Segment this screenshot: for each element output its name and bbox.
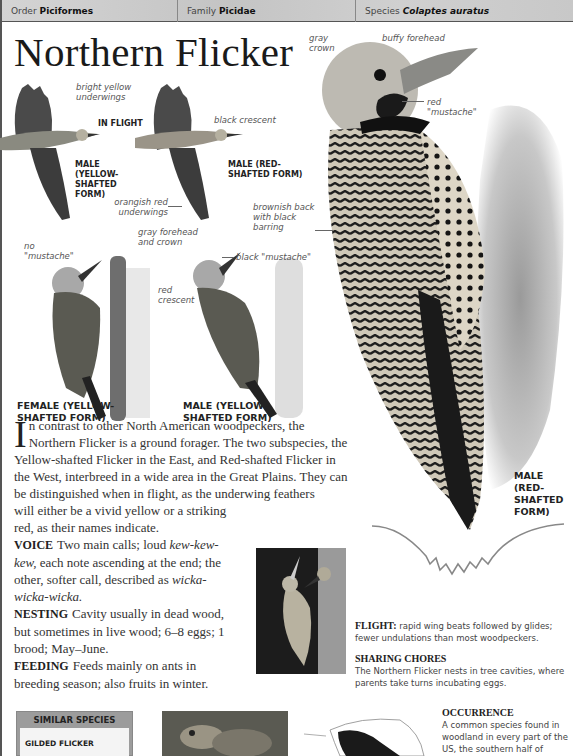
- family-label: Family: [187, 6, 216, 16]
- caption-male-red-flight: MALE (RED- SHAFTED FORM): [228, 160, 308, 180]
- label-black-crescent: black crescent: [214, 115, 276, 125]
- similar-species-heading: SIMILAR SPECIES: [17, 712, 132, 728]
- voice-paragraph: VOICETwo main calls; loud kew-kew-kew, e…: [14, 536, 239, 605]
- details-column: will either be a vivid yellow or a strik…: [14, 502, 239, 692]
- similar-species-name: GILDED FLICKER: [25, 739, 94, 748]
- sharing-chores-section: SHARING CHORES The Northern Flicker nest…: [355, 653, 570, 689]
- flying-bird-yellow-shafted-illustration: [0, 80, 110, 230]
- label-gray-crown: gray crown: [309, 33, 349, 53]
- voice-text: Two main calls; loud: [57, 537, 166, 552]
- nesting-label: NESTING: [14, 607, 68, 621]
- nesting-paragraph: NESTINGCavity usually in dead wood, but …: [14, 605, 239, 657]
- family-cell: FamilyPicidae: [178, 0, 356, 22]
- similar-species-box: SIMILAR SPECIES GILDED FLICKER: [16, 711, 133, 756]
- species-value: Colaptes auratus: [403, 6, 489, 16]
- sharing-chores-text: The Northern Flicker nests in tree cavit…: [355, 665, 570, 689]
- range-map: [300, 712, 430, 756]
- in-flight-heading: IN FLIGHT: [98, 119, 143, 129]
- voice-label: VOICE: [14, 538, 53, 552]
- taxonomy-header: OrderPiciformes FamilyPicidae SpeciesCol…: [0, 0, 573, 22]
- intro-text: n contrast to other North American woodp…: [14, 418, 347, 501]
- leader-line: [168, 206, 182, 207]
- leader-line: [222, 257, 234, 258]
- photo-flickers-at-nest: [256, 548, 346, 674]
- feeding-label: FEEDING: [14, 659, 69, 673]
- caption-male-red-main: MALE (RED- SHAFTED FORM): [514, 470, 572, 518]
- label-gray-forehead-crown: gray forehead and crown: [138, 227, 208, 247]
- intro-continued: will either be a vivid yellow or a strik…: [14, 502, 239, 536]
- label-orangish-red-underwings: orangish red underwings: [108, 197, 168, 217]
- drop-cap: I: [14, 419, 27, 449]
- leader-line: [315, 230, 333, 231]
- flight-pattern-diagram: [370, 520, 566, 580]
- perched-female-yellow-shafted-illustration: [40, 248, 150, 423]
- flight-label: FLIGHT:: [355, 620, 396, 631]
- caption-male-yellow-flight: MALE (YELLOW- SHAFTED FORM): [75, 160, 137, 200]
- photo-flicker-closeup: [162, 711, 288, 756]
- label-buffy-forehead: buffy forehead: [382, 33, 445, 43]
- occurrence-section: OCCURRENCE A common species found in woo…: [442, 707, 572, 755]
- label-bright-yellow-underwings: bright yellow underwings: [76, 82, 156, 102]
- page-title: Northern Flicker: [14, 28, 293, 76]
- label-red-mustache: red "mustache": [427, 97, 477, 117]
- label-no-mustache: no "mustache": [24, 241, 74, 261]
- leader-line: [402, 101, 424, 102]
- species-label: Species: [365, 6, 400, 16]
- similar-species-item: GILDED FLICKER: [20, 728, 129, 756]
- order-cell: OrderPiciformes: [0, 0, 178, 22]
- family-value: Picidae: [219, 6, 256, 16]
- flight-description: FLIGHT: rapid wing beats followed by gli…: [355, 620, 570, 644]
- sharing-chores-heading: SHARING CHORES: [355, 653, 570, 665]
- order-label: Order: [11, 6, 37, 16]
- order-value: Piciformes: [40, 6, 93, 16]
- species-cell: SpeciesColaptes auratus: [356, 0, 573, 22]
- label-red-crescent: red crescent: [158, 285, 198, 305]
- feeding-paragraph: FEEDINGFeeds mainly on ants in breeding …: [14, 657, 239, 692]
- occurrence-text: A common species found in woodland in ev…: [442, 719, 572, 755]
- perched-male-yellow-shafted-illustration: [185, 238, 305, 423]
- occurrence-heading: OCCURRENCE: [442, 707, 572, 719]
- label-brownish-back: brownish back with black barring: [253, 202, 323, 232]
